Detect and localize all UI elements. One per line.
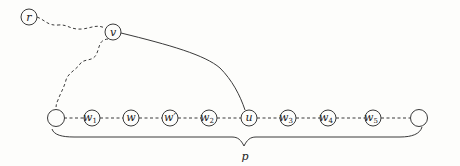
- path-label: p: [241, 150, 248, 163]
- node-start: [48, 110, 65, 127]
- path-brace: [52, 127, 422, 146]
- node-v: v: [105, 24, 121, 40]
- graph-diagram: r v w1 w w′ w2 u w3 w4 w5 p: [0, 0, 460, 166]
- node-w4: w4: [319, 110, 336, 126]
- node-w1: w1: [83, 110, 100, 126]
- edge-v-start: [56, 39, 108, 110]
- node-r: r: [21, 9, 37, 25]
- svg-text:u: u: [245, 111, 252, 124]
- node-w2: w2: [200, 110, 217, 126]
- svg-text:w: w: [126, 111, 136, 124]
- node-w3: w3: [279, 110, 296, 126]
- svg-text:w′: w′: [164, 111, 176, 124]
- node-w5: w5: [364, 110, 381, 126]
- svg-text:r: r: [26, 11, 32, 24]
- edge-r-v: [37, 17, 105, 29]
- node-wprime: w′: [162, 110, 178, 126]
- svg-text:v: v: [110, 26, 117, 39]
- node-u: u: [241, 110, 257, 126]
- node-w: w: [123, 110, 139, 126]
- edge-v-u: [121, 33, 245, 110]
- node-end: [411, 110, 428, 127]
